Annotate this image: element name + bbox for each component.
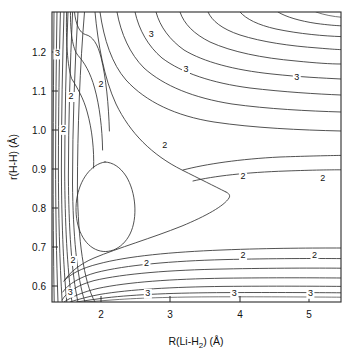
y-axis-title: r(H-H) (Å) (7, 134, 19, 180)
y-axis-tick-labels: 0.6 0.7 0.8 0.9 1.0 1.1 1.2 (32, 47, 46, 292)
contour-label: 2 (312, 250, 317, 260)
contour-label: 3 (68, 287, 73, 297)
y-tick-label: 1.1 (32, 86, 46, 97)
x-axis-title: R(Li-H2) (Å) (168, 335, 223, 350)
contour-label: 2 (241, 250, 246, 260)
x-tick-label: 2 (98, 309, 104, 320)
x-tick-label: 4 (237, 309, 243, 320)
x-axis-tick-labels: 2 3 4 5 (98, 309, 312, 320)
x-axis-title-tail: ) (Å) (203, 335, 223, 347)
contour-label: 2 (71, 255, 76, 265)
y-tick-label: 1.2 (32, 47, 46, 58)
contour-label: 2 (162, 140, 167, 150)
contour-label: 3 (145, 288, 150, 298)
contour-label: 3 (308, 288, 313, 298)
x-tick-label: 5 (306, 309, 312, 320)
x-tick-label: 3 (167, 309, 173, 320)
y-tick-label: 0.8 (32, 203, 46, 214)
x-axis-title-main: R(Li-H (168, 335, 198, 347)
contour-label: 2 (144, 258, 149, 268)
contour-label: 2 (320, 173, 325, 183)
contour-figure: 2 3 4 5 0.6 0.7 0.8 0.9 1.0 1.1 1.2 3223… (0, 0, 356, 363)
contour-label: 2 (98, 79, 103, 89)
y-tick-label: 0.6 (32, 281, 46, 292)
contour-label: 3 (183, 64, 188, 74)
contour-label: 3 (55, 48, 60, 58)
contour-label: 2 (241, 171, 246, 181)
y-tick-label: 0.7 (32, 242, 46, 253)
y-tick-label: 1.0 (32, 125, 46, 136)
contour-label: 3 (149, 29, 154, 39)
y-tick-label: 0.9 (32, 164, 46, 175)
contour-label: 3 (294, 72, 299, 82)
contour-label: 2 (61, 124, 66, 134)
contour-label: 3 (232, 288, 237, 298)
contour-label: 2 (69, 91, 74, 101)
